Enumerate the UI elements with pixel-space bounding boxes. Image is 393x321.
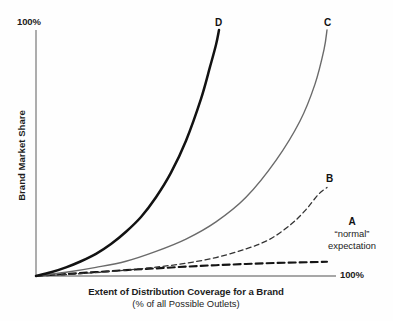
chart-container: 100% 100% Brand Market Share Extent of D…	[0, 0, 393, 321]
y-axis-title: Brand Market Share	[16, 86, 27, 226]
annotation-normal-expectation: A “normal” expectation	[314, 216, 390, 252]
x-axis-tick-100: 100%	[340, 269, 364, 280]
x-axis-title-sub: (% of all Possible Outlets)	[36, 298, 336, 309]
chart-plot-area	[0, 0, 393, 321]
curve-label-b: B	[326, 173, 333, 184]
series-line-d	[36, 30, 219, 276]
curve-label-c: C	[324, 17, 331, 28]
x-axis-title: Extent of Distribution Coverage for a Br…	[36, 286, 336, 309]
y-axis-tick-100: 100%	[17, 16, 41, 27]
series-group	[36, 30, 327, 276]
x-axis-title-main: Extent of Distribution Coverage for a Br…	[36, 286, 336, 297]
annotation-line-2: expectation	[314, 240, 390, 252]
curve-label-d: D	[215, 17, 222, 28]
annotation-line-1: “normal”	[314, 228, 390, 240]
annotation-title-a: A	[314, 216, 390, 228]
